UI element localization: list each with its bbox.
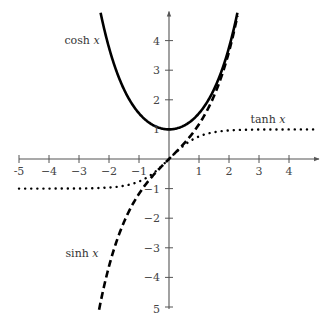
x-tick-label: −3 xyxy=(71,165,87,178)
x-tick-label: 4 xyxy=(286,165,293,178)
x-tick-label: −1 xyxy=(131,165,147,178)
label-var: x xyxy=(93,34,100,47)
x-tick-label: 1 xyxy=(196,165,203,178)
curve-sinh xyxy=(99,16,237,310)
x-tick-label: 3 xyxy=(256,165,263,178)
y-tick-label: 3 xyxy=(153,64,160,77)
y-tick-label: −1 xyxy=(144,183,160,196)
label-sinh: sinh x xyxy=(65,247,99,260)
x-tick-label: −4 xyxy=(41,165,57,178)
label-var: x xyxy=(279,113,286,126)
label-fn: tanh xyxy=(251,113,280,126)
label-fn: cosh xyxy=(64,34,93,47)
x-tick-label: −2 xyxy=(101,165,117,178)
y-tick-label: 4 xyxy=(153,35,160,48)
label-var: x xyxy=(92,247,99,260)
label-fn: sinh xyxy=(65,247,92,260)
label-tanh: tanh x xyxy=(251,113,287,126)
x-tick-label: 2 xyxy=(226,165,233,178)
y-tick-label: −2 xyxy=(144,212,160,225)
hyperbolic-functions-plot: -5−4−3−2−112344321−1−2−3−45cosh xtanh xs… xyxy=(0,0,333,323)
y-tick-label: 2 xyxy=(153,94,160,107)
x-tick-label: -5 xyxy=(14,165,25,178)
y-tick-label: −4 xyxy=(144,271,160,284)
y-tick-label: 1 xyxy=(153,123,160,136)
y-tick-label: −3 xyxy=(144,242,160,255)
label-cosh: cosh x xyxy=(64,34,100,47)
y-tick-label: 5 xyxy=(153,303,160,316)
